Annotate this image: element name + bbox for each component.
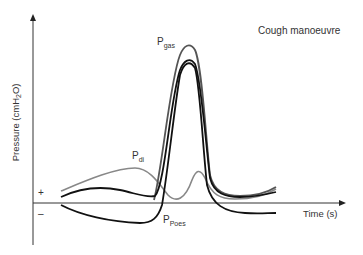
ppoes-label-main: P <box>163 214 170 225</box>
pgas-label-main: P <box>157 36 164 47</box>
x-axis-label: Time (s) <box>303 208 337 219</box>
y-axis-label-main: Pressure (cmH <box>10 98 21 161</box>
pgas-curve <box>154 45 276 200</box>
pgas-label: Pgas <box>157 36 175 49</box>
pgas-black-curve <box>61 60 276 197</box>
y-axis-label-sub: 2 <box>15 94 22 98</box>
pdi-label: Pdi <box>132 150 144 163</box>
x-axis-arrow-icon <box>339 200 346 206</box>
ppoes-label: PPoes <box>163 214 186 227</box>
y-axis-label-end: O) <box>10 84 21 95</box>
y-axis-arrow-icon <box>30 14 36 21</box>
pdi-label-sub: di <box>139 156 144 163</box>
y-axis-label: Pressure (cmH2O) <box>10 72 23 172</box>
chart-title: Cough manoeuvre <box>258 25 340 36</box>
positive-sign: + <box>38 187 44 198</box>
pdi-label-main: P <box>132 150 139 161</box>
negative-sign: – <box>38 208 44 219</box>
pgas-label-sub: gas <box>164 42 175 49</box>
pdi-curve <box>61 168 276 199</box>
ppoes-label-sub: Poes <box>170 220 186 227</box>
